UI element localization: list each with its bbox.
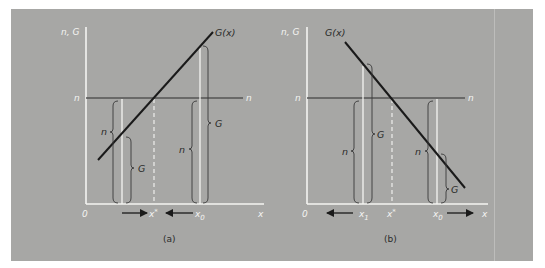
x-star-label: x* (386, 208, 396, 219)
x0-label: x0 (432, 209, 443, 222)
brace-label-n-left: n (342, 146, 348, 157)
caption-a: (a) (163, 234, 176, 244)
brace-n-right (189, 101, 197, 203)
origin-label: 0 (82, 209, 88, 219)
n-level-label-left: n (74, 93, 80, 103)
brace-label-g-left: G (377, 129, 384, 140)
x1-label: x1 (358, 209, 369, 222)
g-curve-label: G(x) (215, 27, 235, 38)
brace-g-left (126, 137, 134, 203)
panel-b: n, G 0 x n n G(x) n G n G x1 x* x0 (b) (281, 27, 488, 244)
brace-label-g-right: G (215, 118, 222, 129)
brace-n-left (110, 101, 118, 203)
diagram-svg: n, G 0 x n n G(x) n G n G x* x0 (a) n, (0, 0, 545, 268)
caption-b: (b) (384, 234, 397, 244)
g-curve-line (98, 32, 213, 160)
brace-label-g-left: G (138, 163, 145, 174)
brace-label-n-right: n (415, 146, 421, 157)
x-axis-label: x (481, 209, 488, 219)
brace-g-right (203, 46, 211, 203)
panel-a: n, G 0 x n n G(x) n G n G x* x0 (a) (61, 27, 264, 244)
x0-label: x0 (194, 209, 205, 222)
y-axis-label: n, G (61, 27, 79, 37)
brace-label-n-right: n (179, 144, 185, 155)
n-level-label-right: n (246, 93, 252, 103)
x-axis-label: x (257, 209, 264, 219)
n-level-label-right: n (468, 93, 474, 103)
g-curve-label: G(x) (325, 27, 345, 38)
brace-label-n-left: n (101, 126, 107, 137)
brace-label-g-right: G (451, 184, 458, 195)
n-level-label-left: n (295, 93, 301, 103)
brace-g-left (367, 64, 375, 203)
brace-n-right (425, 101, 433, 203)
y-axis-label: n, G (281, 27, 299, 37)
brace-n-left (351, 101, 359, 203)
origin-label: 0 (302, 209, 308, 219)
x-star-label: x* (148, 208, 158, 219)
